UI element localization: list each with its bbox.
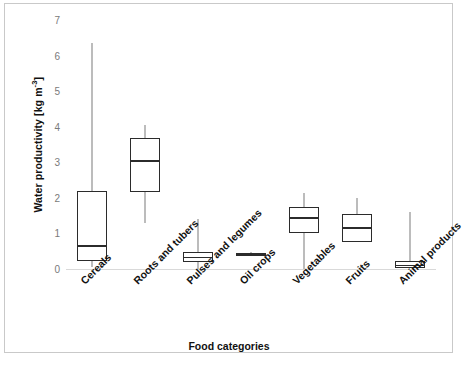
whisker-upper	[92, 43, 93, 191]
whisker-upper	[303, 193, 304, 207]
box-rect	[130, 138, 160, 192]
y-tick-label: 7	[38, 15, 60, 26]
whisker-upper	[409, 212, 410, 261]
median-line	[77, 245, 107, 247]
y-tick-label: 0	[38, 264, 60, 275]
median-line	[289, 217, 319, 219]
whisker-upper	[145, 125, 146, 138]
box-plot-group	[383, 20, 436, 270]
median-line	[130, 160, 160, 162]
x-axis-title: Food categories	[0, 340, 458, 352]
box-plot-group	[66, 20, 119, 270]
median-line	[342, 227, 372, 229]
box-plot-group	[277, 20, 330, 270]
y-tick-label: 6	[38, 50, 60, 61]
box-rect	[289, 207, 319, 233]
y-tick-label: 3	[38, 157, 60, 168]
plot-area	[66, 20, 436, 270]
y-axis-title: Water productivity [kg m-3]	[30, 50, 44, 240]
whisker-upper	[356, 198, 357, 214]
whisker-lower	[145, 192, 146, 223]
y-tick-label: 2	[38, 192, 60, 203]
y-tick-label: 5	[38, 86, 60, 97]
y-tick-label: 4	[38, 121, 60, 132]
y-axis-title-bracket: ]	[32, 77, 44, 81]
y-tick-label: 1	[38, 228, 60, 239]
box-plot-group	[119, 20, 172, 270]
box-rect	[77, 191, 107, 261]
box-plot-group	[330, 20, 383, 270]
